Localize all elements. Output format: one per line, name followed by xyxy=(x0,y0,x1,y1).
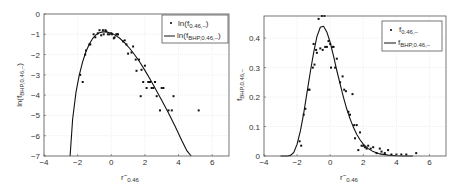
data-point xyxy=(114,36,116,38)
data-point xyxy=(111,33,113,35)
data-point xyxy=(303,114,305,116)
y-tick-label: −7 xyxy=(31,152,41,161)
data-point xyxy=(159,109,161,111)
data-point xyxy=(154,81,156,83)
data-point xyxy=(347,111,349,113)
x-axis-label: r~0.46 xyxy=(340,172,359,183)
data-point xyxy=(405,154,407,156)
data-point xyxy=(326,46,328,48)
data-point xyxy=(318,18,320,20)
data-point xyxy=(138,59,140,61)
data-point xyxy=(198,109,200,111)
y-tick-label: −4 xyxy=(31,91,41,100)
data-point xyxy=(315,49,317,51)
data-point xyxy=(152,87,154,89)
legend: f0.46,– fBHP,0.46,– xyxy=(382,21,442,51)
data-point xyxy=(390,154,392,156)
y-tick-label: 0.1 xyxy=(249,123,261,132)
x-tick-label: 0 xyxy=(328,158,333,167)
y-tick-label: −1 xyxy=(31,30,41,39)
y-axis-label: ln(fBHP,0.46,–) xyxy=(15,63,25,107)
data-point xyxy=(136,70,138,72)
data-point xyxy=(356,124,358,126)
x-tick-label: −4 xyxy=(259,158,269,167)
data-point xyxy=(334,67,336,69)
data-point xyxy=(319,47,321,49)
data-point xyxy=(313,43,315,45)
data-point xyxy=(125,43,127,45)
data-point xyxy=(314,64,316,66)
data-point xyxy=(349,114,351,116)
data-point xyxy=(117,33,119,35)
y-tick-label: −5 xyxy=(31,111,41,120)
data-point xyxy=(367,145,369,147)
data-point xyxy=(93,33,95,35)
data-point xyxy=(105,30,107,32)
data-point xyxy=(300,145,302,147)
data-point xyxy=(97,32,99,34)
data-point xyxy=(379,148,381,150)
data-point xyxy=(299,140,301,142)
legend-dot-icon xyxy=(390,29,392,31)
y-tick-label: −6 xyxy=(31,132,41,141)
x-tick-label: 4 xyxy=(176,158,181,167)
data-point xyxy=(94,36,96,38)
x-tick-label: −2 xyxy=(73,158,83,167)
data-point xyxy=(141,69,143,71)
x-tick-label: 6 xyxy=(210,158,215,167)
data-point xyxy=(85,50,87,52)
figure: −4−20246 0−1−2−3−4−5−6−7 r~0.46 ln(fBHP,… xyxy=(0,0,463,190)
x-tick-label: 2 xyxy=(361,158,366,167)
x-axis-label: r~0.46 xyxy=(121,172,140,183)
data-point xyxy=(312,67,314,69)
data-point xyxy=(339,81,341,83)
data-point xyxy=(79,74,81,76)
data-point xyxy=(173,95,175,97)
data-point xyxy=(135,59,137,61)
y-tick-label: −2 xyxy=(31,51,41,60)
data-point xyxy=(359,131,361,133)
data-point xyxy=(384,152,386,154)
y-tick-label: 0 xyxy=(36,10,41,19)
data-point xyxy=(345,90,347,92)
data-point xyxy=(336,58,338,60)
legend-dot-icon xyxy=(170,22,172,24)
data-point xyxy=(131,52,133,54)
data-point xyxy=(370,148,372,150)
data-point xyxy=(376,152,378,154)
data-point xyxy=(84,54,86,56)
data-point xyxy=(140,95,142,97)
y-tick-label: 0 xyxy=(256,152,261,161)
data-point xyxy=(149,81,151,83)
y-tick-label: 0.2 xyxy=(249,93,261,102)
data-point xyxy=(171,109,173,111)
data-point xyxy=(102,29,104,31)
data-point xyxy=(357,149,359,151)
data-point xyxy=(99,29,101,31)
x-tick-label: 2 xyxy=(143,158,148,167)
data-point xyxy=(322,49,324,51)
log-density-plot: −4−20246 0−1−2−3−4−5−6−7 r~0.46 ln(fBHP,… xyxy=(15,10,229,183)
data-point xyxy=(142,81,144,83)
data-point xyxy=(127,53,129,55)
data-point xyxy=(354,137,356,139)
y-ticks: 00.10.20.30.4 xyxy=(249,34,266,161)
data-point xyxy=(82,81,84,83)
data-point xyxy=(387,149,389,151)
data-point xyxy=(400,154,402,156)
data-point xyxy=(103,33,105,35)
data-point xyxy=(342,75,344,77)
y-tick-label: −3 xyxy=(31,71,41,80)
data-point xyxy=(330,67,332,69)
data-point xyxy=(352,93,354,95)
data-point xyxy=(109,33,111,35)
data-point xyxy=(146,87,148,89)
data-point xyxy=(304,108,306,110)
data-point xyxy=(381,151,383,153)
y-tick-label: 0.3 xyxy=(249,64,261,73)
data-point xyxy=(144,65,146,67)
data-point xyxy=(316,52,318,54)
data-point xyxy=(156,95,158,97)
data-point xyxy=(309,89,311,91)
x-tick-label: 6 xyxy=(427,158,432,167)
